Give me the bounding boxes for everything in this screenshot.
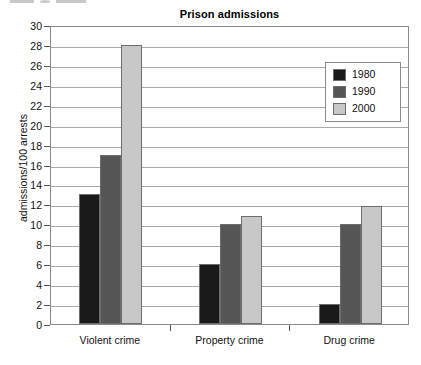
x-axis-tick-mark — [289, 325, 290, 331]
legend-swatch — [333, 86, 346, 98]
scan-artifact — [10, 0, 34, 3]
bar — [340, 224, 361, 324]
scan-artifact-3 — [56, 0, 86, 3]
bar — [241, 216, 262, 324]
x-axis-category-label: Violent crime — [50, 334, 170, 346]
y-axis-tick-label: 24 — [0, 81, 42, 91]
chart-title: Prison admissions — [50, 8, 409, 20]
bar-chart: Prison admissions 0246810121416182022242… — [0, 0, 421, 365]
y-axis-tick-mark — [44, 106, 50, 107]
y-axis-tick-label: 0 — [0, 320, 42, 330]
y-axis-tick-mark — [44, 285, 50, 286]
y-axis-tick-mark — [44, 305, 50, 306]
legend-label: 1980 — [352, 68, 375, 81]
gridline — [51, 127, 408, 128]
bar — [121, 45, 142, 324]
y-axis-tick-mark — [44, 146, 50, 147]
legend: 198019902000 — [325, 62, 401, 122]
y-axis-tick-label: 30 — [0, 21, 42, 31]
scan-artifact-2 — [40, 0, 50, 3]
x-axis-category-label: Drug crime — [289, 334, 409, 346]
y-axis-tick-mark — [44, 265, 50, 266]
bar — [361, 206, 382, 324]
bar — [100, 155, 121, 324]
y-axis-tick-label: 28 — [0, 41, 42, 51]
y-axis-tick-mark — [44, 325, 50, 326]
y-axis-title: admissions/100 arrests — [17, 93, 29, 243]
y-axis-tick-label: 4 — [0, 280, 42, 290]
y-axis-tick-mark — [44, 225, 50, 226]
x-axis-category-label: Property crime — [170, 334, 290, 346]
y-axis-tick-mark — [44, 166, 50, 167]
gridline — [51, 147, 408, 148]
y-axis-tick-mark — [44, 205, 50, 206]
y-axis-tick-mark — [44, 245, 50, 246]
y-axis-tick-mark — [44, 126, 50, 127]
y-axis-tick-label: 6 — [0, 260, 42, 270]
legend-label: 1990 — [352, 85, 375, 98]
y-axis-tick-mark — [44, 46, 50, 47]
bar — [199, 264, 220, 324]
legend-swatch — [333, 103, 346, 115]
y-axis-tick-mark — [44, 185, 50, 186]
legend-label: 2000 — [352, 102, 375, 115]
y-axis-tick-mark — [44, 26, 50, 27]
bar — [220, 224, 241, 324]
y-axis-tick-mark — [44, 66, 50, 67]
y-axis-tick-label: 2 — [0, 300, 42, 310]
y-axis-tick-label: 26 — [0, 61, 42, 71]
gridline — [51, 47, 408, 48]
bar — [79, 194, 100, 324]
y-axis-tick-mark — [44, 86, 50, 87]
x-axis-tick-mark — [170, 325, 171, 331]
bar — [319, 304, 340, 324]
legend-swatch — [333, 69, 346, 81]
